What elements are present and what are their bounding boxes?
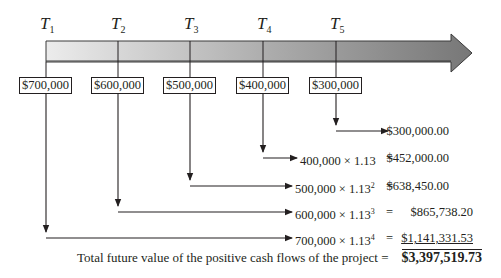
calc-expr-t3: 500,000 × 1.132 xyxy=(295,179,375,196)
period-label-t2: T2 xyxy=(111,15,125,35)
period-label-t3: T3 xyxy=(184,15,198,35)
future-value-t2: $865,738.20 xyxy=(411,205,474,219)
calc-eq-t1: = xyxy=(386,231,393,245)
total-future-value: $3,397,519.73 xyxy=(402,249,483,265)
cash-flow-box-t5: $300,000 xyxy=(309,77,362,94)
future-value-t5: $300,000.00 xyxy=(387,124,450,138)
calc-expr-t2: 600,000 × 1.133 xyxy=(295,205,375,222)
calc-expr-t4: 400,000 × 1.13 xyxy=(300,151,376,168)
future-value-t1: $1,141,331.53 xyxy=(401,231,473,245)
cash-flow-box-t3: $500,000 xyxy=(163,77,216,94)
cash-flow-box-t1: $700,000 xyxy=(19,77,72,94)
calc-expr-t1: 700,000 × 1.134 xyxy=(295,231,375,248)
future-value-t4: $452,000.00 xyxy=(387,151,450,165)
time-arrow xyxy=(46,34,472,72)
period-label-t5: T5 xyxy=(330,15,344,35)
calc-eq-t2: = xyxy=(386,205,393,219)
future-value-t3: $638,450.00 xyxy=(387,179,450,193)
period-label-t4: T4 xyxy=(257,15,271,35)
period-label-t1: T1 xyxy=(40,15,54,35)
cash-flow-box-t4: $400,000 xyxy=(236,77,289,94)
total-label: Total future value of the positive cash … xyxy=(77,250,388,265)
cash-flow-box-t2: $600,000 xyxy=(91,77,144,94)
